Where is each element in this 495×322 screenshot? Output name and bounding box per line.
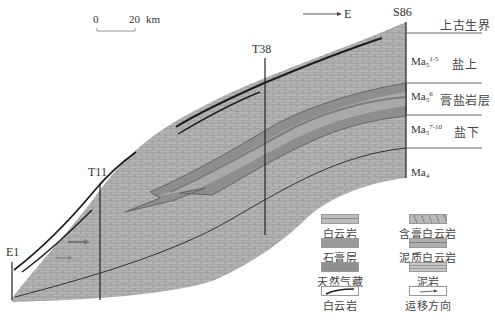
well-label-s86: S86 [393, 5, 412, 20]
argillaceous-dolomite-swatch-icon [409, 238, 447, 248]
legend-label: 白云岩 [300, 297, 380, 313]
legend-item-gypsum-dolomite: 含膏白云岩 [388, 214, 468, 241]
unit-sub: 4 [426, 172, 430, 180]
strata-unit-ma5-7-10: Ma57-10 [411, 123, 442, 137]
unit-name: Ma [411, 123, 426, 135]
unit-sup: 7-10 [429, 123, 442, 131]
unit-name: Ma [411, 55, 426, 67]
strata-label-upper-paleozoic: 上古生界 [440, 16, 490, 34]
scale-bar-end: 20 [129, 13, 140, 25]
unit-name: Ma [411, 166, 426, 178]
legend-label: 运移方向 [388, 297, 468, 313]
strata-unit-ma5-1-5: Ma51-5 [411, 55, 439, 69]
direction-arrow-head [337, 12, 342, 16]
legend-item-mudstone: 泥岩 [388, 262, 468, 289]
legend-item-migration-direction: 运移方向 [388, 286, 468, 313]
legend: 白云岩 含膏白云岩 石膏层 泥质白云岩 天然气藏 泥岩 白云岩 运移方向 [300, 214, 480, 314]
mudstone-swatch-icon [409, 262, 447, 272]
well-label-t11: T11 [88, 165, 107, 180]
strata-unit-ma4: Ma4 [411, 166, 429, 180]
legend-item-argillaceous-dolomite: 泥质白云岩 [388, 238, 468, 265]
migration-arrow-swatch-icon [409, 286, 447, 296]
gas-reservoir-swatch-icon [321, 262, 359, 272]
legend-item-dolomite-line: 白云岩 [300, 286, 380, 313]
unit-name: Ma [411, 90, 426, 102]
legend-item-gypsum: 石膏层 [300, 238, 380, 265]
scale-bar-unit: km [146, 13, 160, 25]
strata-label-gypsum-salt: 膏盐岩层 [440, 91, 490, 109]
well-label-e1: E1 [6, 245, 19, 260]
scale-bar-start: 0 [93, 13, 99, 25]
gypsum-dolomite-swatch-icon [409, 214, 447, 224]
dolomite-swatch-icon [321, 214, 359, 224]
dolomite-line-swatch-icon [321, 286, 359, 296]
unit-sup: 1-5 [429, 55, 438, 63]
strata-label-below-salt: 盐下 [454, 123, 479, 141]
legend-item-dolomite: 白云岩 [300, 214, 380, 241]
strata-label-above-salt: 盐上 [452, 55, 477, 73]
gypsum-swatch-icon [321, 238, 359, 248]
legend-item-gas-reservoir: 天然气藏 [300, 262, 380, 289]
strata-unit-ma5-6: Ma56 [411, 90, 433, 104]
well-label-t38: T38 [252, 42, 271, 57]
direction-label: E [344, 7, 351, 22]
unit-sup: 6 [429, 90, 433, 98]
scale-bar-line [97, 28, 135, 31]
